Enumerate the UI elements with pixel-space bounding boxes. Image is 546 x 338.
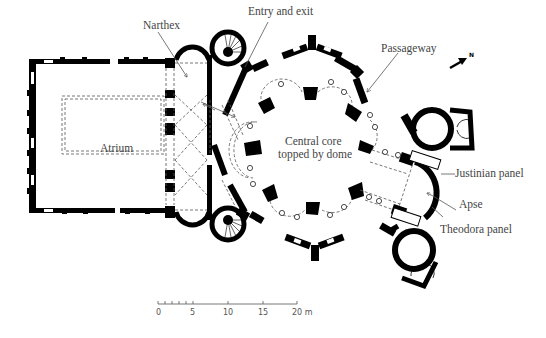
- pier-south: [284, 234, 344, 261]
- label-justinian-panel: Justinian panel: [455, 168, 524, 180]
- label-entry-exit: Entry and exit: [248, 6, 313, 18]
- scale-tick-0: 0: [156, 309, 161, 317]
- chamber-north: [401, 110, 472, 169]
- label-atrium: Atrium: [100, 143, 133, 155]
- scale-tick-5: 5: [190, 309, 195, 317]
- scale-bar: [158, 301, 297, 304]
- scale-tick-15: 15: [258, 309, 268, 317]
- scale-tick-20: 20 m: [292, 309, 313, 317]
- label-passageway: Passageway: [381, 43, 437, 55]
- atrium-walls: [27, 57, 168, 214]
- narthex-walls: [165, 55, 212, 220]
- label-theodora-panel: Theodora panel: [440, 224, 512, 236]
- pier-northeast: [334, 55, 368, 104]
- stair-tower-north: [212, 32, 244, 64]
- octagon-outer-walls: [214, 70, 245, 212]
- label-apse: Apse: [459, 199, 483, 211]
- label-topped-by-dome: topped by dome: [278, 149, 352, 161]
- pier-north: [281, 35, 342, 59]
- label-narthex: Narthex: [143, 20, 180, 32]
- north-arrow-icon: [450, 58, 467, 68]
- north-label: N: [469, 52, 474, 58]
- scale-tick-10: 10: [223, 309, 233, 317]
- label-central-core: Central core: [285, 136, 342, 148]
